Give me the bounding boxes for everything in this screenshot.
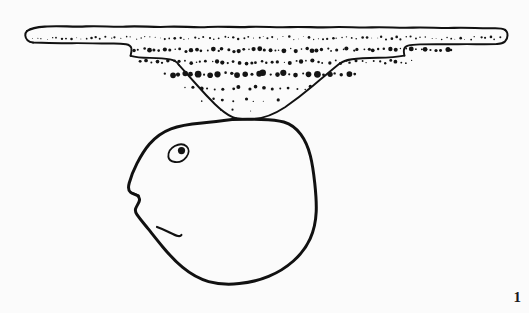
stipple-dot: [184, 60, 186, 62]
line-drawing-canvas: [0, 0, 529, 313]
stipple-dot: [248, 49, 250, 51]
stipple-dot: [144, 59, 148, 63]
stipple-dot: [164, 73, 166, 75]
stipple-dot: [263, 36, 264, 37]
stipple-dot: [287, 87, 290, 90]
stipple-dot: [55, 37, 57, 39]
stipple-dot: [212, 61, 213, 62]
stipple-dot: [47, 39, 48, 40]
stipple-dot: [277, 39, 278, 40]
stipple-dot: [211, 47, 216, 52]
stipple-dot: [220, 60, 224, 64]
stipple-dot: [310, 48, 315, 53]
stipple-dot: [215, 59, 219, 63]
stipple-dot: [203, 74, 205, 76]
stipple-dot: [221, 88, 224, 91]
stipple-dot: [176, 72, 180, 76]
stipple-dot: [406, 36, 408, 38]
stipple-dot: [415, 38, 417, 40]
stipple-dot: [271, 61, 274, 64]
stipple-dot: [353, 49, 355, 51]
stipple-dot: [346, 36, 347, 37]
stipple-dot: [400, 48, 401, 49]
stipple-dot: [301, 48, 303, 50]
stipple-dot: [174, 48, 176, 50]
stipple-dot: [183, 39, 184, 40]
stipple-dot: [274, 49, 276, 51]
stipple-dot: [198, 38, 200, 40]
stipple-dot: [296, 88, 298, 90]
stipple-dot: [250, 111, 251, 112]
stipple-dot: [126, 36, 128, 38]
stipple-dot: [206, 87, 208, 89]
stipple-dot: [160, 37, 161, 38]
stipple-dot: [90, 37, 93, 40]
stipple-dot: [139, 60, 142, 63]
stipple-dot: [336, 37, 337, 38]
stipple-dot: [157, 49, 160, 52]
stipple-dot: [250, 61, 253, 64]
stipple-dot: [263, 101, 264, 102]
stipple-dot: [405, 48, 407, 50]
stipple-dot: [152, 48, 155, 51]
stipple-dot: [322, 73, 325, 76]
stipple-dot: [251, 47, 255, 51]
stipple-dot: [395, 36, 398, 39]
stipple-dot: [355, 48, 358, 51]
stipple-dot: [281, 48, 286, 53]
stipple-dot: [140, 37, 141, 38]
stipple-dot: [227, 62, 229, 64]
stipple-dot: [355, 59, 358, 62]
stipple-dot: [132, 49, 135, 52]
stipple-dot: [70, 38, 73, 41]
stipple-dot: [361, 36, 364, 39]
stipple-dot: [189, 48, 193, 52]
stipple-dot: [202, 36, 204, 38]
stipple-dot: [345, 60, 347, 62]
stipple-dot: [173, 59, 176, 62]
stipple-dot: [224, 71, 227, 74]
stipple-dot: [238, 61, 242, 65]
stipple-dot: [65, 38, 67, 40]
stipple-dot: [250, 73, 253, 76]
stipple-dot: [104, 36, 106, 38]
stipple-dot: [421, 48, 423, 50]
stipple-dot: [290, 48, 291, 49]
stipple-dot: [298, 38, 299, 39]
stipple-dot: [243, 37, 245, 39]
stipple-dot: [232, 36, 234, 38]
stipple-dot: [454, 39, 455, 40]
stipple-dot: [166, 59, 169, 62]
stipple-dot: [253, 37, 254, 38]
stipple-dot: [327, 72, 332, 77]
stipple-dot: [182, 71, 188, 77]
stipple-dot: [207, 72, 213, 78]
stipple-dot: [464, 39, 465, 40]
stipple-dot: [436, 38, 437, 39]
stipple-dot: [304, 89, 306, 91]
stipple-dot: [335, 59, 337, 61]
stipple-dot: [278, 49, 280, 51]
stipple-dot: [355, 38, 357, 40]
stipple-dot: [279, 88, 281, 90]
stipple-dot: [245, 97, 248, 100]
stipple-dot: [200, 86, 204, 90]
stipple-dot: [230, 72, 233, 75]
stipple-dot: [394, 48, 398, 52]
stipple-dot: [429, 49, 431, 51]
stipple-dot: [340, 73, 343, 76]
stipple-dot: [99, 38, 101, 40]
stipple-dot: [296, 60, 298, 62]
stipple-dot: [276, 60, 279, 63]
stipple-dot: [343, 48, 345, 50]
stipple-dot: [317, 61, 319, 63]
stipple-dot: [339, 62, 342, 65]
stipple-dot: [320, 48, 323, 51]
stipple-dot: [371, 48, 375, 52]
stipple-dot: [120, 38, 121, 39]
stipple-dot: [306, 71, 312, 77]
stipple-dot: [480, 36, 482, 38]
stipple-dot: [318, 38, 319, 39]
stipple-dot: [293, 39, 294, 40]
stipple-dot: [232, 50, 235, 53]
